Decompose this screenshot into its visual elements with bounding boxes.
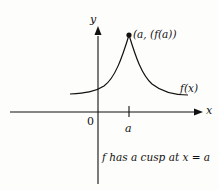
x-axis-arrow-icon <box>194 109 203 116</box>
y-axis-arrow-icon <box>95 26 102 35</box>
cusp-point-label: (a, (f(a)) <box>133 29 177 40</box>
caption: f has a cusp at x = a <box>102 152 210 163</box>
cusp-curve <box>70 35 188 95</box>
x-axis-label: x <box>206 105 212 116</box>
cusp-diagram: y x 0 a (a, (f(a)) f(x) f has a cusp at … <box>0 0 219 190</box>
curve-label: f(x) <box>180 83 198 94</box>
tick-a-label: a <box>125 123 132 134</box>
origin-label: 0 <box>87 116 94 127</box>
y-axis-label: y <box>90 14 96 25</box>
y-axis <box>95 26 102 184</box>
cusp-point <box>126 32 131 37</box>
x-axis <box>10 109 203 116</box>
